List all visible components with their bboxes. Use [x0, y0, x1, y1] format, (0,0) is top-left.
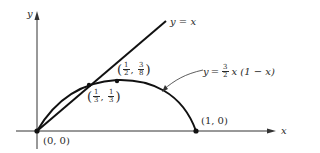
fixed-point-label: ( 1 3 , 1 3 ): [87, 89, 120, 104]
one-zero-label: (1, 0): [201, 116, 228, 126]
point-origin: [34, 128, 39, 133]
fixed-x-den: 3: [93, 97, 99, 104]
point-fixed: [87, 83, 91, 87]
fixed-y-den: 3: [108, 97, 114, 104]
vertex-y: 3 8: [138, 62, 144, 77]
line-label-rhs: x: [190, 16, 196, 27]
fixed-x: 1 3: [93, 89, 99, 104]
coef-denominator: 2: [222, 72, 228, 79]
point-vertex: [115, 79, 119, 83]
origin-label: (0, 0): [43, 136, 70, 146]
parabola-label-rest: x (1 − x): [232, 67, 275, 77]
point-one-zero: [193, 128, 198, 133]
x-axis-arrow-icon: [267, 129, 276, 134]
parabola-label-eq: =: [211, 67, 219, 77]
parabola-label-leader: [163, 70, 203, 90]
parabola-label: y = 3 2 x (1 − x): [203, 64, 275, 79]
line-label-eq: =: [179, 16, 187, 27]
vertex-x-den: 2: [123, 70, 129, 77]
parabola-label-lhs: y: [203, 67, 209, 77]
vertex-x: 1 2: [123, 62, 129, 77]
vertex-y-den: 8: [138, 70, 144, 77]
fixed-y: 1 3: [108, 89, 114, 104]
vertex-label: ( 1 2 , 3 8 ): [117, 62, 150, 77]
x-axis-label: x: [281, 126, 287, 136]
line-label: y = x: [170, 17, 196, 27]
parabola-curve: [37, 80, 196, 131]
parabola-coefficient: 3 2: [222, 64, 228, 79]
y-axis-arrow-icon: [35, 11, 40, 20]
y-axis-label: y: [27, 9, 33, 19]
line-label-lhs: y: [170, 16, 176, 27]
